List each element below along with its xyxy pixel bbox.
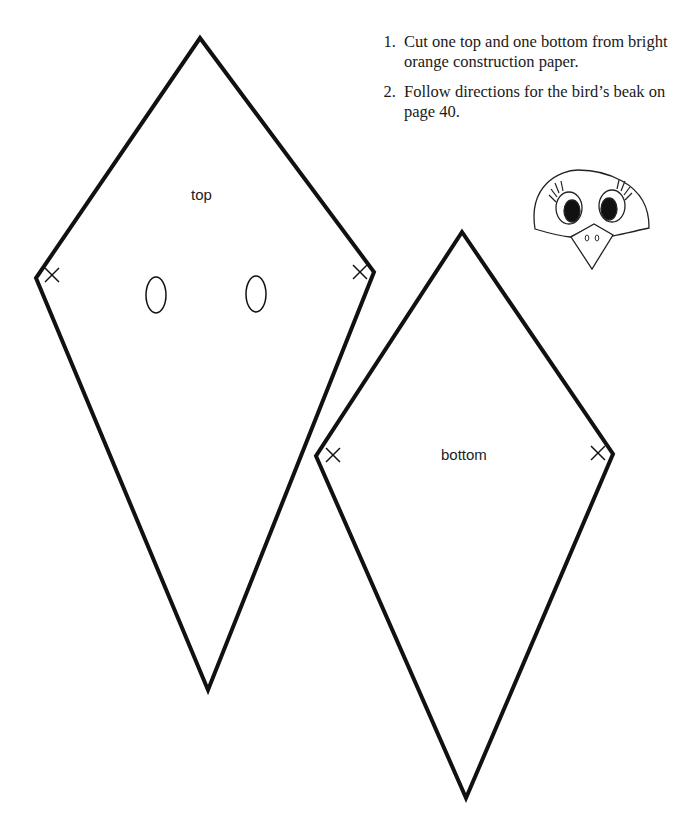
cross-mark-left-icon — [326, 448, 340, 462]
instruction-list: Cut one top and one bottom from bright o… — [378, 32, 678, 122]
eye-hole-left — [146, 277, 166, 313]
instruction-step: Follow directions for the bird’s beak on… — [400, 82, 678, 122]
eye-hole-right — [246, 276, 266, 312]
bird-face-icon — [534, 170, 649, 269]
bottom-piece — [316, 232, 613, 798]
top-piece — [36, 38, 374, 690]
top-piece-label: top — [191, 186, 212, 203]
instruction-step: Cut one top and one bottom from bright o… — [400, 32, 678, 72]
bottom-piece-label: bottom — [441, 446, 487, 463]
cross-mark-right-icon — [353, 265, 367, 279]
cross-mark-left-icon — [45, 268, 59, 282]
instructions: Cut one top and one bottom from bright o… — [378, 32, 678, 132]
cross-mark-right-icon — [591, 446, 605, 460]
